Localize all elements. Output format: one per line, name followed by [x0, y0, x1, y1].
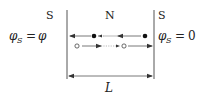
left-boundary-condition: φ S = φ	[9, 29, 47, 45]
length-dimension: L	[68, 74, 152, 95]
length-label: L	[104, 81, 113, 95]
phi-value: φ	[38, 29, 47, 43]
particle-row-left	[70, 34, 147, 39]
zero-value: 0	[188, 29, 196, 43]
open-circle-icon	[122, 44, 126, 48]
dimension-arrowhead-left	[68, 74, 74, 78]
phi-subscript: S	[166, 36, 172, 45]
equals-sign: =	[26, 29, 36, 43]
phi-subscript: S	[17, 36, 23, 45]
right-superconductor-label: S	[158, 9, 166, 22]
open-circle-icon	[75, 44, 79, 48]
equals-sign: =	[175, 29, 185, 43]
left-superconductor-label: S	[46, 9, 54, 22]
particle-row-right	[75, 44, 152, 48]
small-arrowhead-right	[116, 45, 120, 48]
small-arrowhead-left	[98, 35, 102, 38]
sns-junction-diagram: S N S φ S = φ φ S = 0 L	[0, 0, 204, 96]
filled-dot-icon	[92, 34, 97, 39]
right-boundary-condition: φ S = 0	[158, 29, 196, 45]
filled-dot-icon	[143, 34, 148, 39]
normal-metal-label: N	[105, 9, 115, 22]
